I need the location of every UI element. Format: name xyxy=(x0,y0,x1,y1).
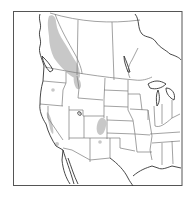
range-map xyxy=(0,0,192,204)
oregon-patch xyxy=(51,88,55,92)
new-mexico-patch xyxy=(98,140,102,144)
